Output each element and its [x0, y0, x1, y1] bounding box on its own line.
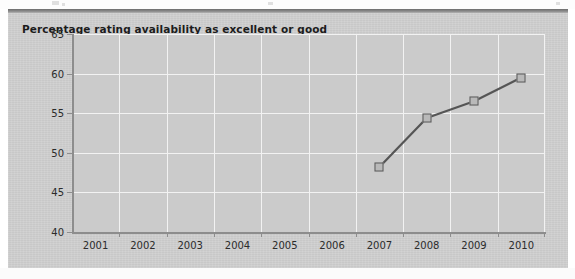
data-point-marker [517, 73, 526, 82]
y-axis-label: 50 [51, 147, 64, 158]
x-axis-label: 2005 [272, 240, 297, 251]
x-axis-label: 2007 [367, 240, 392, 251]
data-point-marker [422, 113, 431, 122]
x-axis-label: 2010 [509, 240, 534, 251]
x-axis-label: 2008 [414, 240, 439, 251]
data-point-marker [470, 97, 479, 106]
x-axis-label: 2001 [83, 240, 108, 251]
x-axis-label: 2002 [130, 240, 155, 251]
y-axis-label: 55 [51, 108, 64, 119]
x-axis-label: 2003 [177, 240, 202, 251]
series-line [72, 34, 545, 232]
plot-area: 65 60 55 50 45 40 2001 2002 2003 2004 20… [72, 34, 545, 232]
y-axis-label: 45 [51, 187, 64, 198]
y-axis-label: 65 [51, 29, 64, 40]
x-axis-label: 2009 [461, 240, 486, 251]
x-axis-label: 2006 [319, 240, 344, 251]
y-axis-label: 40 [51, 227, 64, 238]
y-axis-line [72, 34, 74, 233]
scan-artifact-strip [0, 0, 575, 9]
x-axis-line [72, 232, 546, 234]
y-axis-label: 60 [51, 68, 64, 79]
x-axis-label: 2004 [225, 240, 250, 251]
page-bottom-margin [0, 268, 575, 279]
data-point-marker [375, 163, 384, 172]
